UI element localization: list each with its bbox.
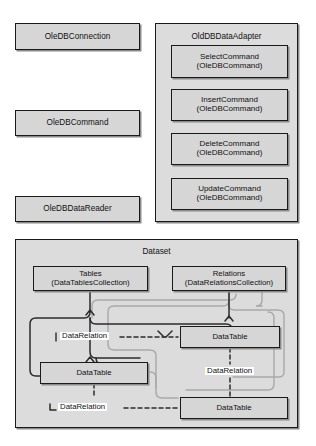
- command-type: (OleDBCommand): [197, 61, 263, 70]
- datatable-box-1: DataTable: [180, 326, 280, 348]
- command-type: (OleDBCommand): [197, 193, 263, 202]
- command-box-text: UpdateCommand (OleDBCommand): [197, 185, 263, 203]
- panel-title-dataset: Dataset: [16, 247, 297, 256]
- collection-type: (DataTablesCollection): [51, 278, 129, 287]
- class-box-label: OleDBDataReader: [43, 204, 111, 213]
- class-box-oledbdatareader: OleDBDataReader: [15, 196, 140, 222]
- command-name: DeleteCommand: [199, 139, 259, 148]
- datatable-label: DataTable: [76, 369, 111, 378]
- datarelation-label-2: DataRelation: [205, 367, 254, 375]
- collection-box-tables: Tables (DataTablesCollection): [33, 266, 148, 291]
- datatable-label: DataTable: [212, 333, 247, 342]
- datatable-box-2: DataTable: [40, 362, 148, 384]
- collection-type: (DataRelationsCollection): [185, 278, 273, 287]
- collection-box-relations: Relations (DataRelationsCollection): [172, 266, 286, 291]
- class-box-oledbcommand: OleDBCommand: [15, 110, 140, 136]
- collection-name: Tables: [79, 269, 102, 278]
- class-box-label: OleDBConnection: [45, 32, 111, 41]
- class-box-label: OleDBCommand: [47, 118, 109, 127]
- datarelation-label-3: DataRelation: [58, 403, 107, 411]
- command-box-selectcommand: SelectCommand (OleDBCommand): [171, 45, 288, 78]
- diagram-canvas: OleDBConnection OleDBCommand OleDBDataRe…: [0, 0, 316, 446]
- collection-box-text: Relations (DataRelationsCollection): [185, 270, 273, 287]
- class-box-oledbconnection: OleDBConnection: [15, 23, 140, 50]
- panel-title-olddbdataadapter: OldDBDataAdapter: [156, 32, 297, 41]
- command-box-text: SelectCommand (OleDBCommand): [197, 53, 263, 71]
- command-type: (OleDBCommand): [197, 148, 263, 157]
- datatable-label: DataTable: [216, 404, 251, 413]
- command-name: UpdateCommand: [198, 184, 261, 193]
- command-name: SelectCommand: [200, 52, 259, 61]
- datatable-box-3: DataTable: [180, 397, 288, 419]
- command-type: (OleDBCommand): [197, 104, 263, 113]
- command-box-insertcommand: InsertCommand (OleDBCommand): [171, 89, 288, 121]
- command-box-updatecommand: UpdateCommand (OleDBCommand): [171, 178, 288, 210]
- datarelation-label-1: DataRelation: [60, 332, 109, 340]
- collection-name: Relations: [213, 269, 246, 278]
- command-box-text: DeleteCommand (OleDBCommand): [197, 140, 263, 158]
- command-name: InsertCommand: [201, 95, 258, 104]
- command-box-deletecommand: DeleteCommand (OleDBCommand): [171, 133, 288, 165]
- command-box-text: InsertCommand (OleDBCommand): [197, 96, 263, 114]
- collection-box-text: Tables (DataTablesCollection): [51, 270, 129, 287]
